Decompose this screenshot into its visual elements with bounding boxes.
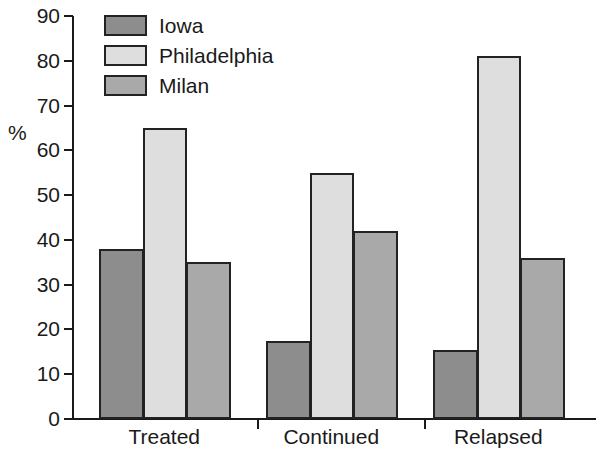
legend-label-milan: Milan	[159, 75, 209, 96]
bar-relapsed-philadelphia[interactable]	[477, 56, 522, 419]
legend-label-iowa: Iowa	[159, 15, 203, 36]
y-axis-tick	[64, 15, 73, 17]
y-axis-tick-label: 40	[0, 229, 60, 250]
y-axis-tick-label: 90	[0, 5, 60, 26]
y-axis-tick-label: 30	[0, 274, 60, 295]
y-axis-tick-label: 0	[0, 408, 60, 429]
bar-treated-milan[interactable]	[186, 262, 231, 419]
y-axis-tick-label: 80	[0, 50, 60, 71]
bar-treated-philadelphia[interactable]	[143, 128, 188, 419]
x-axis-label-relapsed: Relapsed	[418, 425, 578, 449]
bar-continued-philadelphia[interactable]	[310, 173, 355, 419]
bar-continued-iowa[interactable]	[266, 341, 311, 419]
y-axis-tick	[64, 239, 73, 241]
y-axis-tick	[64, 373, 73, 375]
legend: IowaPhiladelphiaMilan	[104, 12, 273, 102]
y-axis-line	[72, 16, 74, 419]
legend-swatch-philadelphia	[104, 45, 147, 66]
legend-item-milan[interactable]: Milan	[104, 72, 273, 99]
y-axis-tick-label: 50	[0, 184, 60, 205]
bar-treated-iowa[interactable]	[99, 249, 144, 419]
bar-relapsed-iowa[interactable]	[433, 350, 478, 419]
bar-continued-milan[interactable]	[353, 231, 398, 419]
y-axis-tick	[64, 328, 73, 330]
y-axis-tick	[64, 194, 73, 196]
x-axis-label-continued: Continued	[251, 425, 411, 449]
x-axis-label-treated: Treated	[84, 425, 244, 449]
y-axis-tick-label: 70	[0, 95, 60, 116]
legend-item-iowa[interactable]: Iowa	[104, 12, 273, 39]
legend-label-philadelphia: Philadelphia	[159, 45, 273, 66]
legend-item-philadelphia[interactable]: Philadelphia	[104, 42, 273, 69]
y-axis-tick	[64, 60, 73, 62]
legend-swatch-milan	[104, 75, 147, 96]
y-axis-tick-label: 20	[0, 318, 60, 339]
bar-chart: % 0102030405060708090 TreatedContinuedRe…	[0, 0, 600, 449]
bar-relapsed-milan[interactable]	[520, 258, 565, 419]
y-axis-tick-label: 60	[0, 139, 60, 160]
y-axis-tick	[64, 284, 73, 286]
y-axis-tick-label: 10	[0, 363, 60, 384]
y-axis-tick	[64, 149, 73, 151]
y-axis-tick	[64, 105, 73, 107]
legend-swatch-iowa	[104, 15, 147, 36]
